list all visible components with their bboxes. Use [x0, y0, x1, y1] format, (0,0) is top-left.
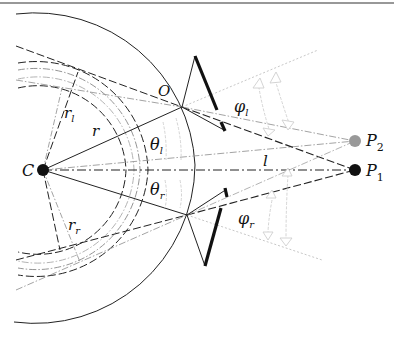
- label-p2: P2: [365, 131, 384, 154]
- point-c: [37, 164, 49, 176]
- theta-arrows: [163, 118, 182, 208]
- lower-plate: [187, 188, 227, 266]
- line-c-to-p2: [43, 141, 355, 170]
- label-r: r: [92, 122, 100, 140]
- label-c: C: [22, 161, 34, 180]
- ray-lower-to-p2: [187, 141, 355, 215]
- lower-gray-ray: [16, 215, 187, 290]
- label-o: O: [158, 82, 170, 100]
- ray-o-to-p1: [182, 107, 355, 170]
- radius-left-gray: [43, 88, 62, 170]
- label-r-right: rr: [68, 216, 81, 236]
- phi-arrowheads: [253, 72, 294, 246]
- label-phi-left: φl: [234, 97, 248, 118]
- label-r-left: rl: [64, 104, 74, 124]
- lower-tangent-line: [16, 215, 187, 260]
- label-p1: P1: [365, 161, 384, 184]
- label-distance-l: l: [263, 152, 268, 170]
- radius-right-line: [43, 170, 60, 250]
- upper-normal-dotted: [182, 50, 318, 107]
- label-theta-right: θr: [150, 180, 166, 201]
- label-phi-right: φr: [238, 209, 255, 230]
- point-p2: [349, 135, 361, 147]
- point-p1: [349, 164, 361, 176]
- label-theta-left: θl: [150, 135, 163, 156]
- diagram-canvas: C O r rl rr θl θr φl φr l P2 P1: [0, 0, 394, 339]
